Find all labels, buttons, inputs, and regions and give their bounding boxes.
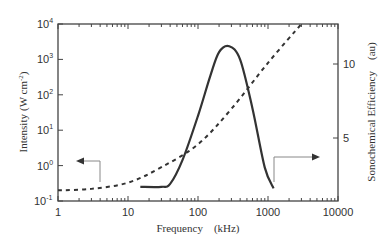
arrow-left-icon bbox=[76, 158, 84, 165]
y-tick-1e-1: 10-1 bbox=[34, 194, 53, 207]
y-tick-1e3: 103 bbox=[37, 52, 53, 65]
y-tick-1e1: 101 bbox=[37, 123, 53, 136]
y2-major-ticks bbox=[333, 64, 338, 138]
y-tick-1e0: 100 bbox=[37, 159, 53, 172]
left-arrow-annotation bbox=[76, 158, 100, 183]
y-axis-title: Intensity(W cm-2) bbox=[17, 71, 30, 152]
y-tick-1e4: 104 bbox=[37, 17, 53, 30]
x-tick-100: 100 bbox=[189, 206, 207, 218]
x-minor-ticks bbox=[79, 24, 335, 201]
x-axis-title: Frequency (kHz) bbox=[156, 222, 239, 235]
y-tick-1e2: 102 bbox=[37, 88, 53, 101]
chart: 1 10 100 1000 10000 104 103 102 101 100 … bbox=[0, 0, 385, 245]
y-tick-labels: 104 103 102 101 100 10-1 bbox=[34, 17, 53, 207]
y2-axis-title: Sonochemical Efficiency (au) bbox=[365, 42, 378, 182]
right-arrow-annotation bbox=[274, 154, 320, 183]
x-tick-10: 10 bbox=[122, 206, 134, 218]
y2-tick-5: 5 bbox=[343, 132, 349, 144]
arrow-right-icon bbox=[312, 154, 320, 161]
x-tick-10000: 10000 bbox=[323, 206, 354, 218]
y2-tick-10: 10 bbox=[343, 58, 355, 70]
x-tick-1000: 1000 bbox=[256, 206, 280, 218]
y-major-ticks bbox=[58, 24, 63, 201]
x-tick-1: 1 bbox=[55, 206, 61, 218]
